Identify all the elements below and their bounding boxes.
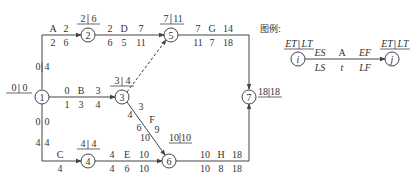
legend-i-et: ET <box>284 38 298 49</box>
activity-F-lf: 10 <box>140 132 150 143</box>
node-2-lt: 6 <box>92 13 97 24</box>
activity-B-name: B <box>78 85 85 96</box>
legend-es: ES <box>313 47 325 58</box>
network-diagram: 1 2 3 4 5 6 7 <box>0 0 413 180</box>
activity-D-ef: 7 <box>139 23 144 34</box>
legend-lf: LF <box>358 62 372 73</box>
legend-ls: LS <box>314 62 326 73</box>
activity-D-ls: 6 <box>108 37 113 48</box>
activity-D-lf: 11 <box>136 37 146 48</box>
legend-activity-name: A <box>338 47 346 58</box>
node-3-lt: 4 <box>126 75 131 86</box>
activity-E-name: E <box>124 149 130 160</box>
activity-H-name: H <box>217 149 224 160</box>
node-3: 3 <box>115 90 129 104</box>
activity-H-es: 10 <box>200 149 210 160</box>
node-2-et: 2 <box>81 13 86 24</box>
activity-C-name: C <box>57 149 64 160</box>
node-1: 1 <box>35 90 49 104</box>
legend: 图例: i ET LT ES A EF LS t LF j ET LT <box>260 23 410 73</box>
activity-G-name: G <box>208 23 215 34</box>
activity-H-ef: 18 <box>232 149 242 160</box>
activity-A-name: A <box>49 23 57 34</box>
node-6-label: 6 <box>167 156 172 167</box>
activity-D-name: D <box>120 23 127 34</box>
node-4-lt: 4 <box>92 138 97 149</box>
activity-A-duration: 2 <box>51 37 56 48</box>
activity-H-ls: 10 <box>200 163 210 174</box>
legend-node-i-label: i <box>297 54 300 65</box>
node-5: 5 <box>164 28 178 42</box>
activity-E-lf: 10 <box>139 163 149 174</box>
node-6-lt: 10 <box>181 132 191 143</box>
activity-B-ef: 3 <box>96 85 101 96</box>
node-4-label: 4 <box>86 156 91 167</box>
legend-title: 图例: <box>260 23 281 34</box>
node-5-lt: 11 <box>173 13 183 24</box>
activity-H-duration: 8 <box>219 163 224 174</box>
legend-j-lt: LT <box>397 38 410 49</box>
edge-dummy <box>127 40 166 92</box>
activity-H-lf: 18 <box>232 163 242 174</box>
node-5-label: 5 <box>169 30 174 41</box>
node-6: 6 <box>162 154 176 168</box>
activity-E-es: 4 <box>110 149 115 160</box>
activity-G-lf: 18 <box>223 37 233 48</box>
activity-F-es: 3 <box>139 101 144 112</box>
node-3-et: 3 <box>115 75 120 86</box>
activity-A-ef: 2 <box>64 23 69 34</box>
node-times <box>6 14 282 149</box>
activity-A-ls: 4 <box>45 61 50 72</box>
activity-G-duration: 7 <box>210 37 215 48</box>
activity-B-ls: 1 <box>65 99 70 110</box>
node-3-label: 3 <box>120 92 125 103</box>
activity-C-ls: 0 <box>45 116 50 127</box>
node-4-et: 4 <box>81 138 86 149</box>
node-7: 7 <box>242 90 256 104</box>
activity-C-lf: 4 <box>45 137 50 148</box>
legend-duration: t <box>341 62 344 73</box>
node-6-et: 10 <box>169 132 179 143</box>
node-5-et: 7 <box>164 13 169 24</box>
legend-i-lt: LT <box>301 38 314 49</box>
activity-C-ef: 4 <box>36 137 41 148</box>
activity-F-ef: 9 <box>155 124 160 135</box>
activity-F-ls: 4 <box>128 109 133 120</box>
node-4: 4 <box>81 154 95 168</box>
activity-A-lf: 6 <box>64 37 69 48</box>
activity-D-es: 2 <box>108 23 113 34</box>
legend-ef: EF <box>358 47 372 58</box>
node-1-lt: 0 <box>23 82 28 93</box>
node-2: 2 <box>81 28 95 42</box>
node-7-lt: 18 <box>270 86 280 97</box>
activity-C-duration: 4 <box>58 163 63 174</box>
activity-A-es: 0 <box>36 61 41 72</box>
node-1-et: 0 <box>12 82 17 93</box>
activity-B-es: 0 <box>65 85 70 96</box>
activity-B-lf: 4 <box>96 99 101 110</box>
activity-E-ef: 10 <box>139 149 149 160</box>
node-2-label: 2 <box>86 30 91 41</box>
activity-G-es: 7 <box>196 23 201 34</box>
activity-labels: A 2 2 6 0 4 0 B 3 1 3 4 0 0 4 4 C 4 2 D … <box>36 23 243 174</box>
activity-C-es: 0 <box>36 116 41 127</box>
activity-B-duration: 3 <box>79 99 84 110</box>
activity-G-ls: 11 <box>193 37 203 48</box>
activity-G-ef: 14 <box>223 23 233 34</box>
legend-j-et: ET <box>380 38 394 49</box>
nodes: 1 2 3 4 5 6 7 <box>35 28 256 168</box>
activity-D-duration: 5 <box>122 37 127 48</box>
activity-E-ls: 4 <box>110 163 115 174</box>
node-1-label: 1 <box>40 92 45 103</box>
activity-E-duration: 6 <box>125 163 130 174</box>
node-7-et: 18 <box>258 86 268 97</box>
node-7-label: 7 <box>247 92 252 103</box>
